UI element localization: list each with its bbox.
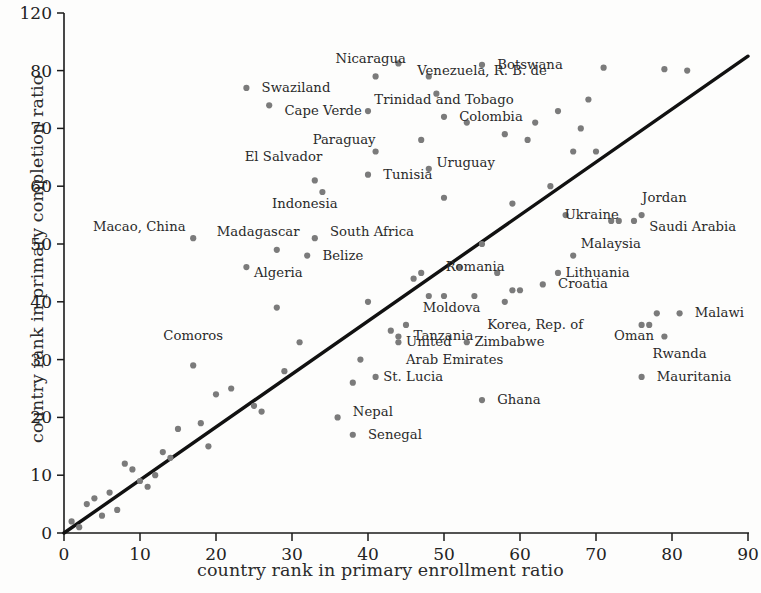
data-point [312,177,318,183]
data-points [69,60,691,530]
data-point [479,397,485,403]
data-point [312,235,318,241]
point-label: Madagascar [217,225,300,239]
data-point [502,131,508,137]
data-point [365,172,371,178]
data-point [639,374,645,380]
point-label: El Salvador [245,150,323,164]
data-point [274,304,280,310]
data-point [137,478,143,484]
y-tick-label: 60 [30,176,52,196]
data-point [532,120,538,126]
data-point [190,362,196,368]
data-point [114,507,120,513]
y-tick-label: 10 [30,465,52,485]
point-label: Saudi Arabia [649,220,736,234]
data-point [555,108,561,114]
point-label: Nicaragua [336,52,406,66]
data-point [266,102,272,108]
point-label: Uruguay [436,156,495,170]
data-point [570,148,576,154]
point-label: Trinidad and Tobago [374,93,513,107]
data-point [570,252,576,258]
data-point [441,293,447,299]
data-point [122,461,128,467]
identity-line [64,56,748,533]
data-point [395,333,401,339]
data-point [403,322,409,328]
x-tick-label: 70 [585,544,607,564]
data-point [631,218,637,224]
data-point [243,264,249,270]
point-label: Tunisia [383,168,432,182]
y-tick-label: 0 [41,523,52,543]
data-point [601,65,607,71]
y-tick-label: 40 [30,292,52,312]
data-point [205,443,211,449]
x-tick-label: 60 [509,544,531,564]
data-point [350,432,356,438]
data-point [99,513,105,519]
data-point [167,455,173,461]
point-label: St. Lucia [383,370,443,384]
data-point [357,357,363,363]
point-label: Zimbabwe [474,335,544,349]
data-point [540,281,546,287]
point-label: Malaysia [581,237,641,251]
point-label: Indonesia [272,197,338,211]
data-point [190,235,196,241]
point-label: Comoros [163,329,223,343]
point-label: Senegal [368,428,422,442]
data-point [585,96,591,102]
data-point [175,426,181,432]
data-point [335,414,341,420]
x-tick-label: 30 [281,544,303,564]
x-tick-label: 80 [661,544,683,564]
x-tick-label: 0 [59,544,70,564]
data-point [388,328,394,334]
data-point [639,212,645,218]
plot-canvas [0,0,761,593]
data-point [365,108,371,114]
data-point [684,68,690,74]
data-point [426,293,432,299]
point-label: Venezuela, R. B. de [417,64,547,78]
data-point [228,385,234,391]
data-point [243,85,249,91]
y-axis-title: country rank in primary completion ratio [27,113,47,443]
data-point [502,299,508,305]
data-point [373,374,379,380]
point-label: Oman [614,329,654,343]
data-point [365,299,371,305]
x-tick-label: 40 [357,544,379,564]
point-label: Paraguay [313,133,376,147]
data-point [251,403,257,409]
data-point [661,333,667,339]
data-point [547,183,553,189]
data-point [479,241,485,247]
data-point [418,137,424,143]
data-point [373,73,379,79]
point-label: Belize [322,249,363,263]
point-label: Arab Emirates [406,353,503,367]
data-point [304,252,310,258]
point-label: Mauritania [657,370,732,384]
reference-line [64,56,748,533]
x-tick-label: 90 [737,544,759,564]
data-point [84,501,90,507]
y-tick-label: 70 [30,118,52,138]
point-label: Colombia [459,110,523,124]
data-point [509,287,515,293]
data-point [107,489,113,495]
data-point [441,114,447,120]
data-point [661,66,667,72]
x-tick-label: 10 [129,544,151,564]
data-point [76,524,82,530]
y-tick-label: 50 [30,234,52,254]
data-point [525,137,531,143]
data-point [319,189,325,195]
data-point [593,148,599,154]
data-point [91,495,97,501]
point-label: Rwanda [653,347,707,361]
point-label: United [406,335,452,349]
